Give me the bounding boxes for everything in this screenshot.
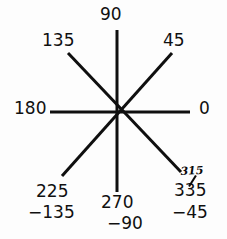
label-angle-180: 180 [14, 99, 46, 118]
label-angle-135: 135 [42, 31, 74, 50]
label-angle-neg-45: −45 [172, 203, 208, 222]
label-angle-0: 0 [199, 99, 210, 118]
label-angle-neg-90: −90 [107, 214, 143, 233]
label-angle-225: 225 [36, 182, 68, 201]
label-angle-270: 270 [101, 193, 133, 212]
label-angle-neg-135: −135 [28, 203, 75, 222]
label-angle-45: 45 [163, 31, 185, 50]
angle-convention-diagram: 90 135 45 180 0 225 270 335 −135 −90 −45… [0, 0, 227, 239]
label-angle-90: 90 [100, 5, 122, 24]
